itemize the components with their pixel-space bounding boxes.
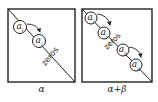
arrow-icon	[97, 14, 110, 25]
node-label: ai	[14, 21, 26, 33]
node-label: aq	[130, 59, 142, 71]
zeros-label: zeros	[40, 45, 61, 67]
caption-alpha-beta: α+β	[82, 84, 152, 94]
caption-alpha: α	[8, 84, 75, 94]
arrow-icon	[27, 24, 40, 32]
node-label: aj	[98, 27, 110, 39]
node-label: ap	[117, 44, 129, 56]
node-label: ai	[85, 12, 97, 24]
arrow-icon	[129, 47, 141, 57]
node-label: aj	[33, 35, 45, 47]
